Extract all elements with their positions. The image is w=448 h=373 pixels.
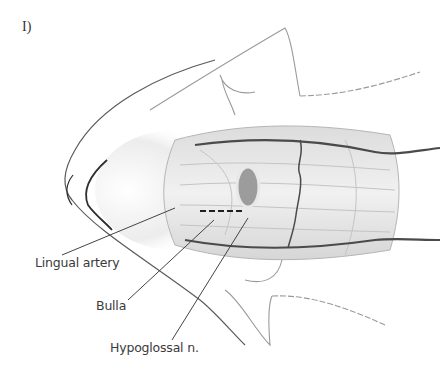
neck-musculature [164, 126, 399, 260]
label-bulla: Bulla [96, 298, 126, 313]
lower-ear [225, 260, 385, 345]
upper-ear [150, 28, 420, 115]
label-lingual-artery: Lingual artery [35, 255, 119, 270]
panel-label: I) [22, 19, 31, 35]
illustration-drawing [0, 0, 448, 373]
label-hypoglossal-nerve: Hypoglossal n. [110, 340, 199, 355]
anatomical-illustration: I) Lingual artery Bulla Hypoglossal n. [0, 0, 448, 373]
